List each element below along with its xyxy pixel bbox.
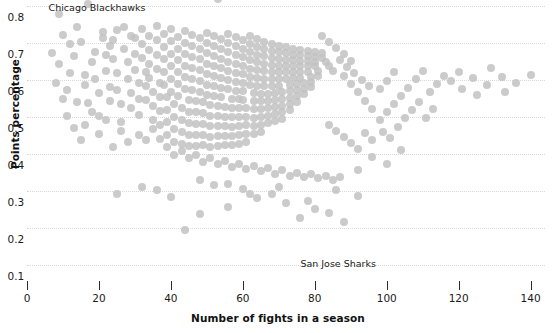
data-point [77,136,85,144]
data-point [426,88,434,96]
data-point [142,82,150,90]
data-point [113,190,121,198]
data-point [340,50,348,58]
data-point [70,124,78,132]
data-point [365,82,373,90]
x-tick-mark [531,281,532,290]
data-point [66,40,74,48]
data-point [368,153,376,161]
data-point [117,118,125,126]
data-point [336,173,344,181]
data-point [408,106,416,114]
data-point [314,72,322,80]
data-point [192,151,200,159]
x-tick-label: 0 [24,292,31,304]
data-point [412,75,420,83]
data-point [117,127,125,135]
x-tick-mark [243,281,244,290]
x-tick-mark [99,281,100,290]
x-tick-mark [459,281,460,290]
data-point [99,34,107,42]
data-point [73,23,81,31]
data-point [160,68,168,76]
data-point [113,26,121,34]
data-point [286,106,294,114]
data-point [55,60,63,68]
data-point [153,22,161,30]
data-point [487,64,495,72]
data-point [311,205,319,213]
data-point [268,190,276,198]
data-point [63,86,71,94]
y-tick-label: 0.8 [8,11,24,23]
data-point [124,138,132,146]
data-point [196,210,204,218]
data-point [415,98,423,106]
data-point [282,199,290,207]
data-point [163,106,171,114]
data-point [138,25,146,33]
data-point [483,81,491,89]
data-point [354,145,362,153]
data-point [95,89,103,97]
data-point [135,131,143,139]
data-point [354,88,362,96]
data-point [113,69,121,77]
data-point [332,186,340,194]
data-point [160,81,168,89]
data-point [142,136,150,144]
data-point [376,85,384,93]
x-tick-label: 20 [92,292,105,304]
data-point [217,93,225,101]
x-tick-label: 80 [308,292,321,304]
data-point [84,99,92,107]
data-point [354,192,362,200]
data-point [106,97,114,105]
data-point [206,154,214,162]
data-point [386,134,394,142]
data-point [167,193,175,201]
data-point [224,203,232,211]
data-point [253,194,261,202]
data-point [63,112,71,120]
data-point [361,97,369,105]
data-point [210,181,218,189]
chicago-blackhawks-label: Chicago Blackhawks [49,2,146,13]
data-point [109,55,117,63]
data-point [135,111,143,119]
data-point [383,160,391,168]
data-point [293,98,301,106]
y-tick-label: 0.2 [8,233,24,245]
data-point [160,30,168,38]
x-tick-mark [171,281,172,290]
data-point [473,91,481,99]
data-point [145,74,153,82]
data-point [318,32,326,40]
data-point [224,180,232,188]
data-point [368,105,376,113]
data-point [390,100,398,108]
data-point [239,185,247,193]
data-point [153,36,161,44]
data-point [383,108,391,116]
data-point [120,45,128,53]
data-point [181,226,189,234]
data-point [178,147,186,155]
data-point [278,166,286,174]
data-point [59,95,67,103]
data-point [88,58,96,66]
data-point [404,84,412,92]
data-point [394,123,402,131]
data-point [433,80,441,88]
x-tick-label: 140 [521,292,541,304]
data-point [145,60,153,68]
data-point [390,68,398,76]
y-tick-label: 0.6 [8,85,24,97]
data-point [278,115,286,123]
y-axis-tick-labels: 0.10.20.30.40.50.60.70.8 [0,0,27,282]
x-axis-title: Number of fights in a season [0,312,556,324]
data-point [77,38,85,46]
data-point [239,96,247,104]
data-point [102,116,110,124]
data-point [332,127,340,135]
